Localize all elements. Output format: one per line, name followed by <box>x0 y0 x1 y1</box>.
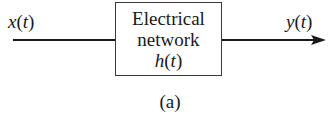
input-signal-label: x(t) <box>8 12 34 31</box>
block-title-line1: Electrical <box>132 8 205 29</box>
figure-caption: (a) <box>0 92 329 111</box>
block-diagram: x(t) Electrical network h(t) y(t) (a) <box>0 0 329 136</box>
system-block: Electrical network h(t) <box>115 2 222 76</box>
close-paren: ) <box>176 50 182 71</box>
close-paren: ) <box>28 11 34 32</box>
block-title-line2: network <box>137 29 199 50</box>
close-paren: ) <box>306 11 312 32</box>
impulse-response-label: h(t) <box>155 50 182 71</box>
impulse-response-name: h <box>155 50 165 71</box>
output-signal-label: y(t) <box>286 12 312 31</box>
